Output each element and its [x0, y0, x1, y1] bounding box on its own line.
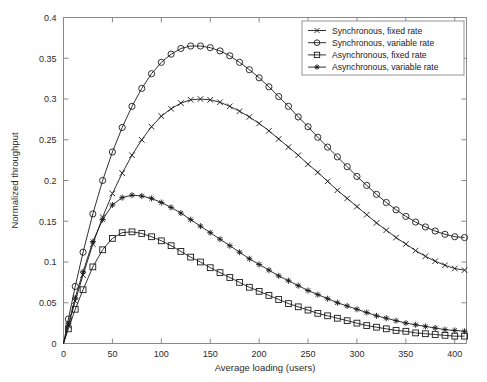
- chart-canvas: 05010015020025030035040000.050.10.150.20…: [0, 0, 487, 382]
- x-tick-label: 250: [301, 349, 316, 359]
- legend-label-2: Asynchronous, fixed rate: [332, 50, 427, 60]
- legend: Synchronous, fixed rateSynchronous, vari…: [302, 21, 464, 75]
- x-tick-label: 350: [398, 349, 413, 359]
- y-tick-label: 0.1: [44, 257, 57, 267]
- legend-label-3: Asynchronous, variable rate: [332, 62, 439, 72]
- series-2: [64, 229, 468, 344]
- series-line: [64, 99, 465, 344]
- y-tick-label: 0.25: [39, 135, 57, 145]
- legend-label-1: Synchronous, variable rate: [332, 38, 434, 48]
- y-tick-label: 0: [51, 339, 56, 349]
- x-tick-label: 150: [203, 349, 218, 359]
- y-tick-label: 0.35: [39, 54, 57, 64]
- y-axis-title: Normalized throughput: [9, 132, 20, 228]
- y-tick-label: 0.05: [39, 298, 57, 308]
- series-3: [64, 192, 468, 343]
- x-tick-label: 300: [349, 349, 364, 359]
- y-tick-label: 0.3: [44, 94, 57, 104]
- chart-figure: 05010015020025030035040000.050.10.150.20…: [0, 0, 487, 382]
- x-tick-label: 200: [252, 349, 267, 359]
- x-tick-label: 400: [447, 349, 462, 359]
- y-tick-label: 0.15: [39, 217, 57, 227]
- y-tick-label: 0.2: [44, 176, 57, 186]
- x-axis-title: Average loading (users): [215, 362, 316, 373]
- x-tick-label: 100: [154, 349, 169, 359]
- x-tick-label: 0: [61, 349, 66, 359]
- x-tick-label: 50: [107, 349, 117, 359]
- legend-label-0: Synchronous, fixed rate: [332, 26, 423, 36]
- series-line: [64, 232, 465, 344]
- series-0: [64, 96, 468, 343]
- series-line: [64, 46, 465, 343]
- y-tick-label: 0.4: [44, 13, 57, 23]
